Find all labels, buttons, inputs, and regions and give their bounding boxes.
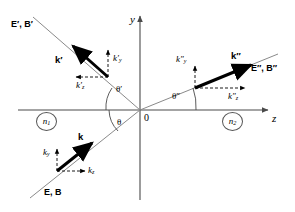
transmitted-kz-subscript: z (236, 95, 238, 101)
transmitted-ky-subscript: y (184, 58, 187, 64)
medium-n1-subscript: 1 (47, 121, 50, 127)
reflected-kz-label: k′z (76, 81, 84, 90)
reflected-k-label: k′ (55, 55, 63, 65)
medium-n2-subscript: 2 (233, 121, 236, 127)
incident-ky-label: ky (43, 148, 50, 157)
incident-k-vector (57, 143, 92, 171)
transmitted-k-vector (195, 65, 251, 88)
incident-kz-subscript: z (92, 169, 94, 175)
ray-diagram-svg (0, 0, 295, 212)
reflected-ky-subscript: y (119, 57, 122, 63)
incident-k-label: k (78, 132, 83, 142)
medium-n2-badge: n2 (222, 112, 243, 131)
reflected-k-vector (73, 46, 108, 77)
angle-arc-reflected (106, 88, 112, 110)
transmitted-ky-label: k″y (176, 55, 186, 64)
incident-ky-subscript: y (47, 151, 50, 157)
angle-reflected-label: θ′ (116, 85, 122, 94)
transmitted-kz-symbol: k″ (228, 91, 236, 101)
reflected-ky-label: k′y (113, 54, 122, 63)
reflected-kz-subscript: z (82, 84, 84, 90)
transmitted-k-label: k″ (231, 51, 241, 61)
transmitted-kz-label: k″z (228, 92, 238, 101)
angle-transmitted-label: θ″ (172, 92, 180, 101)
incident-kz-label: kz (88, 166, 94, 175)
reflected-field-label: E′, B′ (11, 20, 33, 29)
angle-incident-label: θ (117, 118, 121, 127)
figure-canvas: y z 0 n1 n2 θ θ′ θ″ k ky kz E, B k′ k′y … (0, 0, 295, 212)
y-axis-label: y (130, 14, 135, 25)
z-axis-label: z (272, 113, 276, 124)
transmitted-ky-symbol: k″ (176, 54, 184, 64)
angle-arc-transmitted (193, 88, 196, 110)
incident-field-label: E, B (44, 188, 62, 197)
medium-n1-badge: n1 (36, 112, 57, 131)
origin-label: 0 (144, 113, 149, 123)
transmitted-field-label: E″, B″ (251, 64, 277, 73)
reflected-ray-line (33, 17, 140, 110)
